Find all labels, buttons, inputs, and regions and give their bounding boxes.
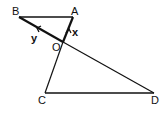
geometry-diagram: B A O C D x y [0, 0, 163, 113]
label-d: D [151, 94, 159, 106]
diagram-svg: B A O C D x y [0, 0, 163, 113]
label-b: B [12, 5, 19, 17]
label-c: C [38, 94, 46, 106]
vector-y [19, 17, 63, 42]
label-y: y [31, 32, 38, 44]
label-x: x [72, 26, 79, 38]
label-a: A [71, 5, 79, 17]
segment-od [63, 42, 154, 93]
label-o: O [52, 41, 61, 53]
